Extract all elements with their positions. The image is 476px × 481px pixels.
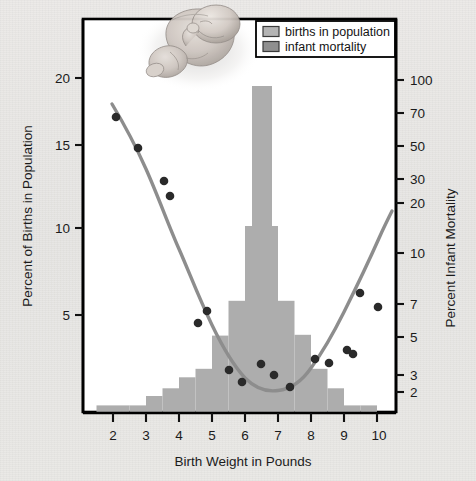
- bar: [311, 369, 328, 413]
- y-right-tick-label: 70: [410, 106, 425, 121]
- x-tick-label: 4: [175, 428, 183, 443]
- data-point: [270, 371, 279, 380]
- y-right-tick-label: 2: [410, 385, 418, 400]
- y-axis-left-title: Percent of Births in Population: [20, 125, 35, 307]
- x-axis: 2 3 4 5 6 7 8 9 10 Birth Weight in Pound…: [83, 413, 396, 469]
- x-tick-label: 2: [109, 428, 117, 443]
- y-right-tick-label: 20: [410, 196, 425, 211]
- x-tick-label: 5: [208, 428, 216, 443]
- bar: [212, 336, 229, 413]
- bar: [146, 396, 163, 413]
- data-point: [134, 144, 143, 153]
- data-point: [286, 383, 295, 392]
- chart-svg: births in population infant mortality 20…: [0, 0, 476, 481]
- legend: births in population infant mortality: [256, 21, 395, 57]
- y-left-tick-label: 15: [55, 138, 70, 153]
- legend-label-infant-mortality: infant mortality: [285, 40, 367, 54]
- data-point: [238, 378, 247, 387]
- y-left-tick-label: 10: [55, 221, 70, 236]
- data-point: [311, 355, 320, 364]
- bar: [163, 388, 180, 413]
- x-tick-label: 9: [340, 428, 348, 443]
- x-tick-label: 8: [307, 428, 315, 443]
- y-right-tick-label: 5: [410, 330, 418, 345]
- birth-weight-mortality-figure: births in population infant mortality 20…: [0, 0, 476, 481]
- bar: [262, 226, 279, 413]
- data-point: [349, 350, 358, 359]
- bar: [328, 388, 345, 413]
- legend-label-births-in-population: births in population: [285, 25, 390, 39]
- data-point: [356, 289, 365, 298]
- y-right-tick-label: 100: [410, 73, 433, 88]
- data-point: [166, 192, 175, 201]
- data-point: [374, 303, 383, 312]
- y-left-tick-label: 20: [55, 71, 70, 86]
- bar: [196, 369, 213, 413]
- data-point: [112, 113, 121, 122]
- data-point: [203, 307, 212, 316]
- data-point: [325, 359, 334, 368]
- data-point: [257, 360, 266, 369]
- y-right-tick-label: 3: [410, 368, 418, 383]
- x-tick-label: 10: [371, 428, 386, 443]
- bar: [179, 377, 196, 413]
- data-point: [225, 366, 234, 375]
- y-right-tick-label: 7: [410, 297, 418, 312]
- data-point: [160, 177, 169, 186]
- legend-swatch-infant-mortality: [263, 42, 279, 52]
- x-axis-title: Birth Weight in Pounds: [174, 454, 311, 469]
- y-right-tick-label: 50: [410, 139, 425, 154]
- data-point: [194, 319, 203, 328]
- y-axis-right: 100 70 50 30 20 10 7 5 3 2 Percent Infan…: [396, 19, 458, 413]
- y-right-tick-label: 10: [410, 246, 425, 261]
- y-left-tick-label: 5: [62, 308, 70, 323]
- y-right-tick-label: 30: [410, 172, 425, 187]
- bar: [278, 301, 295, 413]
- y-axis-right-title: Percent Infant Mortality: [443, 188, 458, 327]
- x-tick-label: 7: [274, 428, 282, 443]
- y-axis-left: 20 15 10 5 Percent of Births in Populati…: [20, 19, 83, 413]
- x-tick-label: 3: [142, 428, 150, 443]
- legend-swatch-births-in-population: [263, 27, 279, 37]
- x-tick-label: 6: [241, 428, 249, 443]
